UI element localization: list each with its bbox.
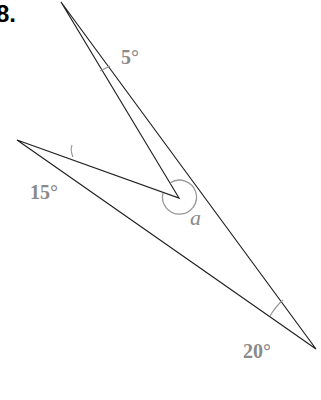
angle-arc-15: [71, 145, 73, 157]
concave-quadrilateral: [17, 2, 316, 349]
angle-label-a: a: [190, 205, 201, 230]
angle-label-5: 5°: [121, 46, 139, 68]
angle-label-15: 15°: [30, 181, 58, 203]
angle-label-20: 20°: [243, 340, 271, 362]
angle-arc-20: [270, 300, 283, 316]
arrowhead-diagram: 8. 5° 15° 20° a: [0, 0, 321, 400]
problem-number: 8.: [0, 0, 16, 27]
